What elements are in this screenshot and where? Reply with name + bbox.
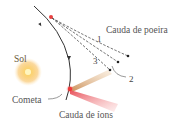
marker-1: 1 [97, 35, 102, 44]
sun-label: Sol [14, 55, 27, 65]
marker-3: 3 [93, 57, 98, 66]
ion-tail [70, 90, 118, 112]
dust-tail [70, 70, 112, 92]
orbit-arrow-icon [67, 56, 71, 60]
comet-label: Cometa [12, 96, 42, 106]
orbit-arrow-icon [38, 23, 42, 28]
orbit-path [34, 6, 70, 100]
marker-2: 2 [129, 75, 134, 84]
dust-tail-label: Cauda de poeira [106, 26, 168, 36]
ion-tail-label: Cauda de íons [59, 111, 113, 121]
